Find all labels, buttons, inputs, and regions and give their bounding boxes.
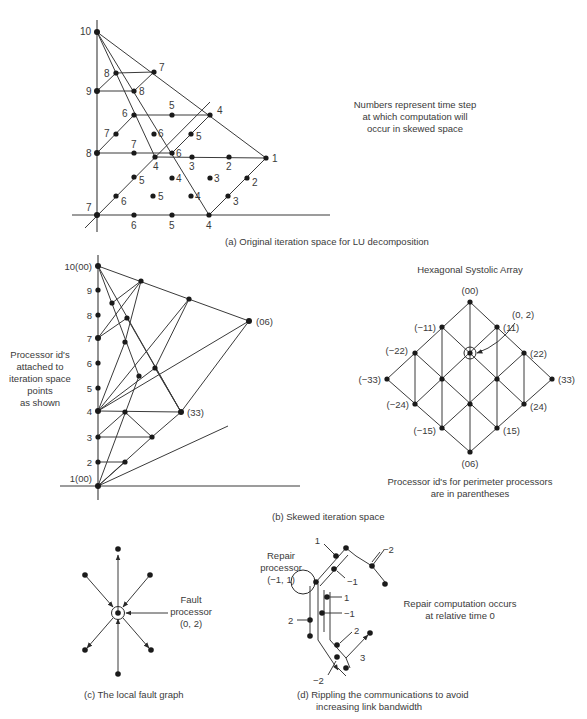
point-label: 4 <box>153 161 159 172</box>
time-tag: 2 <box>288 615 293 626</box>
note-line: Processor id's <box>0 349 80 361</box>
panel-a-note: Numbers represent time step at which com… <box>330 99 500 135</box>
axis-label-7: 7 <box>86 202 92 213</box>
repair-label: processor <box>260 562 302 573</box>
axis-label: 3 <box>87 432 92 443</box>
panel-b-points <box>95 263 252 489</box>
panel-c-local-fault-graph: Fault processor (0, 2) (c) The local fau… <box>82 546 212 700</box>
hex-label: (11) <box>503 322 519 333</box>
panel-b-skewed-iteration-space: 10(00) 9 8 7 6 5 4 3 2 1(00) (06) (33) (… <box>60 255 384 522</box>
caption-b: (b) Skewed iteration space <box>272 511 384 522</box>
hex-label: (−22) <box>386 345 408 356</box>
panel-a-points <box>94 29 269 218</box>
axis-label-9: 9 <box>86 86 92 97</box>
point-label: 5 <box>169 100 175 111</box>
note-line: iteration space <box>0 373 80 385</box>
axis-label: 5 <box>87 383 92 394</box>
repair-label: (−1, 1) <box>267 574 295 585</box>
axis-label: 1(00) <box>70 473 92 484</box>
time-tag: 1 <box>344 592 349 603</box>
axis-label: 4 <box>87 406 92 417</box>
point-label: 6 <box>122 108 128 119</box>
hex-label: (−15) <box>414 425 436 436</box>
note-line: attached to <box>0 361 80 373</box>
time-tag: 3 <box>360 652 365 663</box>
caption-a: (a) Original iteration space for LU deco… <box>225 236 429 247</box>
repair-node <box>313 579 319 585</box>
point-label: 5 <box>196 131 202 142</box>
hex-label: (00) <box>462 285 479 296</box>
processor-label-06: (06) <box>256 316 273 327</box>
note-line: Numbers represent time step <box>330 99 500 111</box>
note-line: Repair computation occurs <box>390 598 530 610</box>
hex-label: (15) <box>503 425 520 436</box>
point-label: 4 <box>176 173 182 184</box>
note-line: at relative time 0 <box>390 610 530 622</box>
point-label: 5 <box>158 191 164 202</box>
point-label: 3 <box>214 173 220 184</box>
note-line: Processor id's for perimeter processors <box>370 476 570 488</box>
hex-label: (06) <box>462 458 479 469</box>
time-tag: 2 <box>354 625 359 636</box>
point-label: 3 <box>233 196 239 207</box>
point-label: 5 <box>139 175 145 186</box>
time-tag: −2 <box>383 544 394 555</box>
repair-label: Repair <box>267 550 295 561</box>
hex-label: (33) <box>558 374 575 385</box>
note-line: are in parentheses <box>370 488 570 500</box>
hex-fault-label: (0, 2) <box>512 309 534 320</box>
point-label: 5 <box>169 220 175 231</box>
note-line: at which computation will <box>330 111 500 123</box>
point-label: 4 <box>206 220 212 231</box>
point-label: 8 <box>104 68 110 79</box>
time-tag: −1 <box>347 576 358 587</box>
fault-node <box>115 610 121 616</box>
caption-d-line2: increasing link bandwidth <box>316 701 422 712</box>
axis-label-8: 8 <box>86 148 92 159</box>
point-label: 6 <box>131 220 137 231</box>
hex-label: (−33) <box>359 374 381 385</box>
point-label: 2 <box>226 161 232 172</box>
point-label: 7 <box>131 139 137 150</box>
point-label: 1 <box>272 153 278 164</box>
axis-label: 8 <box>87 310 92 321</box>
fault-label: processor <box>170 606 212 617</box>
point-label: 8 <box>139 86 145 97</box>
point-label: 4 <box>195 191 201 202</box>
point-label: 6 <box>121 196 127 207</box>
caption-c: (c) The local fault graph <box>84 689 184 700</box>
point-label: 7 <box>104 128 110 139</box>
note-line: occur in skewed space <box>330 123 500 135</box>
fault-label: (0, 2) <box>180 618 202 629</box>
point-label: 7 <box>159 62 165 73</box>
axis-label: 2 <box>87 457 92 468</box>
fault-label: Fault <box>180 594 201 605</box>
axis-label: 7 <box>87 333 92 344</box>
axis-label: 9 <box>87 285 92 296</box>
point-label: 3 <box>189 161 195 172</box>
point-label: 2 <box>252 177 258 188</box>
note-line: as shown <box>0 397 80 409</box>
hex-label: (22) <box>530 348 547 359</box>
axis-label-10: 10 <box>80 26 92 37</box>
hex-label: (−24) <box>387 399 409 410</box>
hex-note: Processor id's for perimeter processors … <box>370 476 570 500</box>
time-tag: −1 <box>344 608 355 619</box>
note-line: points <box>0 385 80 397</box>
hexagonal-systolic-array: Hexagonal Systolic Array <box>359 264 575 469</box>
axis-label: 6 <box>87 358 92 369</box>
point-label: 4 <box>217 105 223 116</box>
hex-title: Hexagonal Systolic Array <box>417 264 523 275</box>
hex-label: (24) <box>530 401 547 412</box>
axis-label: 10(00) <box>65 261 92 272</box>
time-tag: −2 <box>313 675 324 686</box>
point-label: 6 <box>158 128 164 139</box>
hex-label: (−11) <box>414 322 436 333</box>
panel-d-rippling-communications: 1 −2 −1 1 −1 2 2 3 −2 Repair processor (… <box>260 535 468 712</box>
panel-d-note: Repair computation occurs at relative ti… <box>390 598 530 622</box>
panel-b-side-note: Processor id's attached to iteration spa… <box>0 349 80 409</box>
processor-label-33: (33) <box>187 407 204 418</box>
point-label: 6 <box>176 148 182 159</box>
caption-d-line1: (d) Rippling the communications to avoid <box>297 689 469 700</box>
time-tag: 1 <box>315 535 320 546</box>
